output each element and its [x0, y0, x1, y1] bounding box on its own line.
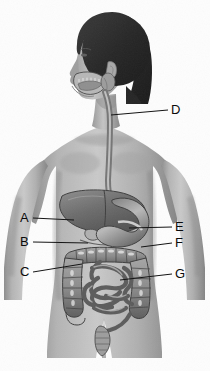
label-c: C: [20, 265, 29, 278]
label-a: A: [20, 211, 29, 224]
label-f: F: [175, 236, 183, 249]
label-d: D: [171, 103, 180, 116]
label-b: B: [20, 235, 29, 248]
label-g: G: [175, 267, 185, 280]
digestive-system-illustration: [0, 0, 210, 371]
paper-grain: [0, 0, 210, 371]
label-e: E: [175, 220, 184, 233]
figure-canvas: A B C D E F G: [0, 0, 210, 371]
